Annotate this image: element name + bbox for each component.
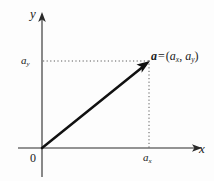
vector-a-shaft [42,66,145,149]
x-component-subscript: x [149,157,152,165]
equals-sign: = [157,49,166,63]
label-comp-x-base: a [170,49,176,63]
x-component-base: a [143,151,149,163]
label-comp-x-sub: x [176,55,179,64]
y-component-tick-label: ay [21,55,30,66]
y-component-subscript: y [27,60,30,68]
x-component-tick-label: ax [143,152,152,163]
origin-label: 0 [30,152,36,164]
vector-diagram-figure: y x 0 ay ax a=(ax, ay) [0,0,214,181]
vector-label: a=(ax, ay) [151,50,198,62]
comma-separator: , [179,49,182,63]
label-comp-y-sub: y [191,55,194,64]
y-component-base: a [21,54,27,66]
close-paren: ) [194,49,198,63]
y-axis-label: y [30,7,36,20]
x-axis-label: x [199,142,205,155]
